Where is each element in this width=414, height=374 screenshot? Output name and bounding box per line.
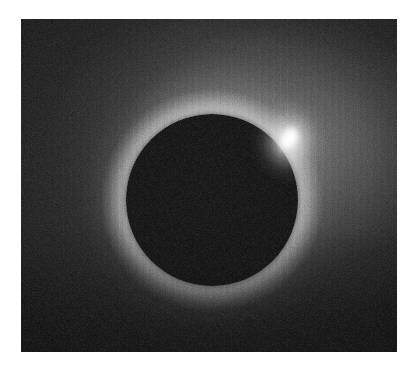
image-canvas xyxy=(0,0,414,374)
photograph-plate xyxy=(21,19,397,352)
